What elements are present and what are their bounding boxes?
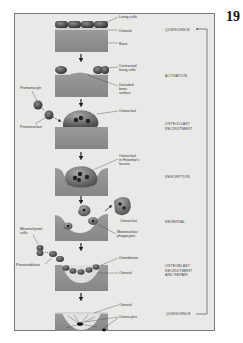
cycle-return-line [196,28,207,314]
stage-resorption [55,159,118,196]
stage-label-osteoblast-recruitment-1: OSTEOBLAST [165,264,191,268]
label-osteoclast-reversal: Osteoclast [120,219,137,223]
label-lining-cells: Lining cells [119,15,137,19]
bone-remodeling-diagram: Lining cells Osteoid Bone QUIESCENCE Con… [0,0,243,343]
label-osteoclast-howship-3: lacuna [119,162,130,166]
label-osteoid-repair: Osteoid [119,271,131,275]
label-mesenchymal-2: cells [20,231,27,235]
stage-label-reversal: REVERSAL [165,220,185,224]
stage-activation [55,66,118,97]
stage-osteoblast-recruitment [33,235,118,291]
stage-label-quiescence-bottom: QUIESCENCE [166,312,191,316]
stage-quiescence-top [55,17,118,52]
stage-quiescence-bottom [55,305,118,331]
label-osteocytes: Osteocytes [119,315,137,319]
label-preosteoclast: Preosteoclast [20,125,42,129]
stage-label-activation: ACTIVATION [165,74,187,78]
label-denuded-3: surface [119,91,131,95]
stage-osteoclast-recruitment [32,91,118,149]
stage-label-osteoblast-recruitment-2: RECRUITMENT [165,269,193,273]
label-osteoid-final: Osteoid [119,303,131,307]
label-mononuclear-2: phagocytes [117,234,136,238]
stage-label-resorption: RESORPTION [165,175,190,179]
label-preosteoblasts: Preosteoblasts [16,263,40,267]
stage-label-osteoblast-recruitment-3: AND REPAIR [165,273,188,277]
label-promonocyte: Promonocyte [20,86,41,90]
stage-label-osteoclast-recruitment-1: OSTEOCLAST [165,122,191,126]
stage-label-osteoclast-recruitment-2: RECRUITMENT [165,127,193,131]
stage-label-quiescence-top: QUIESCENCE [165,28,190,32]
label-osteoblasts: Osteoblasts [119,256,138,260]
label-contracted-lining-cells-2: lining cells [119,68,136,72]
label-bone: Bone [119,42,127,46]
label-osteoid: Osteoid [119,29,131,33]
label-osteoclast: Osteoclast [119,109,136,113]
